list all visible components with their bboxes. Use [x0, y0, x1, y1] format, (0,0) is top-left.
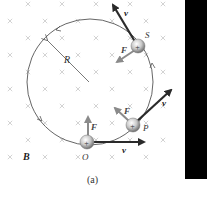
field-label: B — [22, 151, 30, 162]
charge-sign-o: + — [84, 139, 89, 148]
velocity-label-s: v — [124, 8, 129, 18]
position-label-s: S — [145, 30, 150, 40]
figure-diagram: R v F + S v F + P v F + — [0, 0, 207, 197]
position-label-o: O — [82, 152, 89, 162]
charge-sign-s: + — [135, 43, 140, 52]
black-panel — [185, 0, 207, 179]
velocity-label-o: v — [122, 145, 127, 155]
velocity-label-p: v — [162, 98, 167, 108]
charge-sign-p: + — [130, 122, 135, 131]
force-label-s: F — [120, 45, 127, 55]
force-label-p: F — [123, 106, 130, 116]
particle-p: v F + P — [115, 90, 171, 133]
figure-caption: (a) — [0, 174, 185, 185]
force-label-o: F — [90, 122, 97, 132]
diagram-canvas: R v F + S v F + P v F + — [0, 0, 207, 197]
radius-label: R — [63, 54, 70, 65]
position-label-p: P — [142, 123, 149, 133]
